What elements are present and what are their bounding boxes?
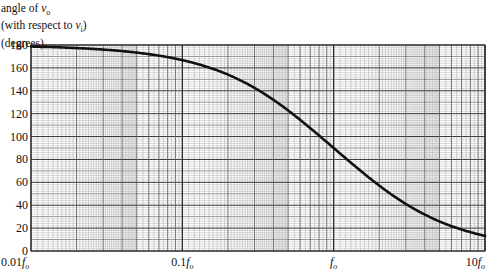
y-tick-label: 140 [10, 84, 28, 98]
x-tick-label: fo [330, 255, 337, 271]
y-tick-label: 100 [10, 130, 28, 144]
y-tick-label: 20 [16, 221, 28, 235]
y-tick-label: 60 [16, 175, 28, 189]
y-tick-label: 160 [10, 61, 28, 75]
y-tick-label: 40 [16, 198, 28, 212]
phase-plot: 020406080100120140160180 0.01fo0.1fofo10… [0, 0, 503, 277]
y-tick-label: 180 [10, 38, 28, 52]
y-tick-labels: 020406080100120140160180 [10, 38, 28, 258]
x-tick-label: 0.01fo [1, 255, 29, 271]
y-tick-label: 80 [16, 152, 28, 166]
y-tick-label: 120 [10, 107, 28, 121]
x-tick-labels: 0.01fo0.1fofo10fo [1, 255, 485, 271]
x-tick-label: 0.1fo [171, 255, 193, 271]
x-tick-label: 10fo [466, 255, 485, 271]
grid-minor [31, 45, 485, 251]
